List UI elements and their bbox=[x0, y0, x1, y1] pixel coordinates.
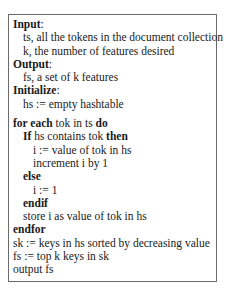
output-heading: Output: bbox=[13, 58, 223, 71]
pseudocode: Input: ts, all the tokens in the documen… bbox=[13, 18, 223, 277]
output-line-fs: fs, a set of k features bbox=[13, 71, 223, 84]
input-line-ts: ts, all the tokens in the document colle… bbox=[13, 31, 223, 44]
algorithm-box: Input: ts, all the tokens in the documen… bbox=[8, 14, 217, 282]
endif-line: endif bbox=[13, 197, 223, 210]
then-line-increment: increment i by 1 bbox=[13, 157, 223, 170]
endfor-line: endfor bbox=[13, 223, 223, 236]
initialize-heading: Initialize: bbox=[13, 84, 223, 97]
output-fs-line: output fs bbox=[13, 263, 223, 276]
initialize-line-hs: hs := empty hashtable bbox=[13, 98, 223, 111]
if-line: If hs contains tok then bbox=[13, 130, 223, 143]
then-line-assign: i := value of tok in hs bbox=[13, 144, 223, 157]
else-line-assign: i := 1 bbox=[13, 184, 223, 197]
sort-line: sk := keys in hs sorted by decreasing va… bbox=[13, 237, 223, 250]
for-each-line: for each tok in ts do bbox=[13, 117, 223, 130]
input-heading: Input: bbox=[13, 18, 223, 31]
top-k-line: fs := top k keys in sk bbox=[13, 250, 223, 263]
input-line-k: k, the number of features desired bbox=[13, 45, 223, 58]
store-line: store i as value of tok in hs bbox=[13, 210, 223, 223]
else-line: else bbox=[13, 170, 223, 183]
